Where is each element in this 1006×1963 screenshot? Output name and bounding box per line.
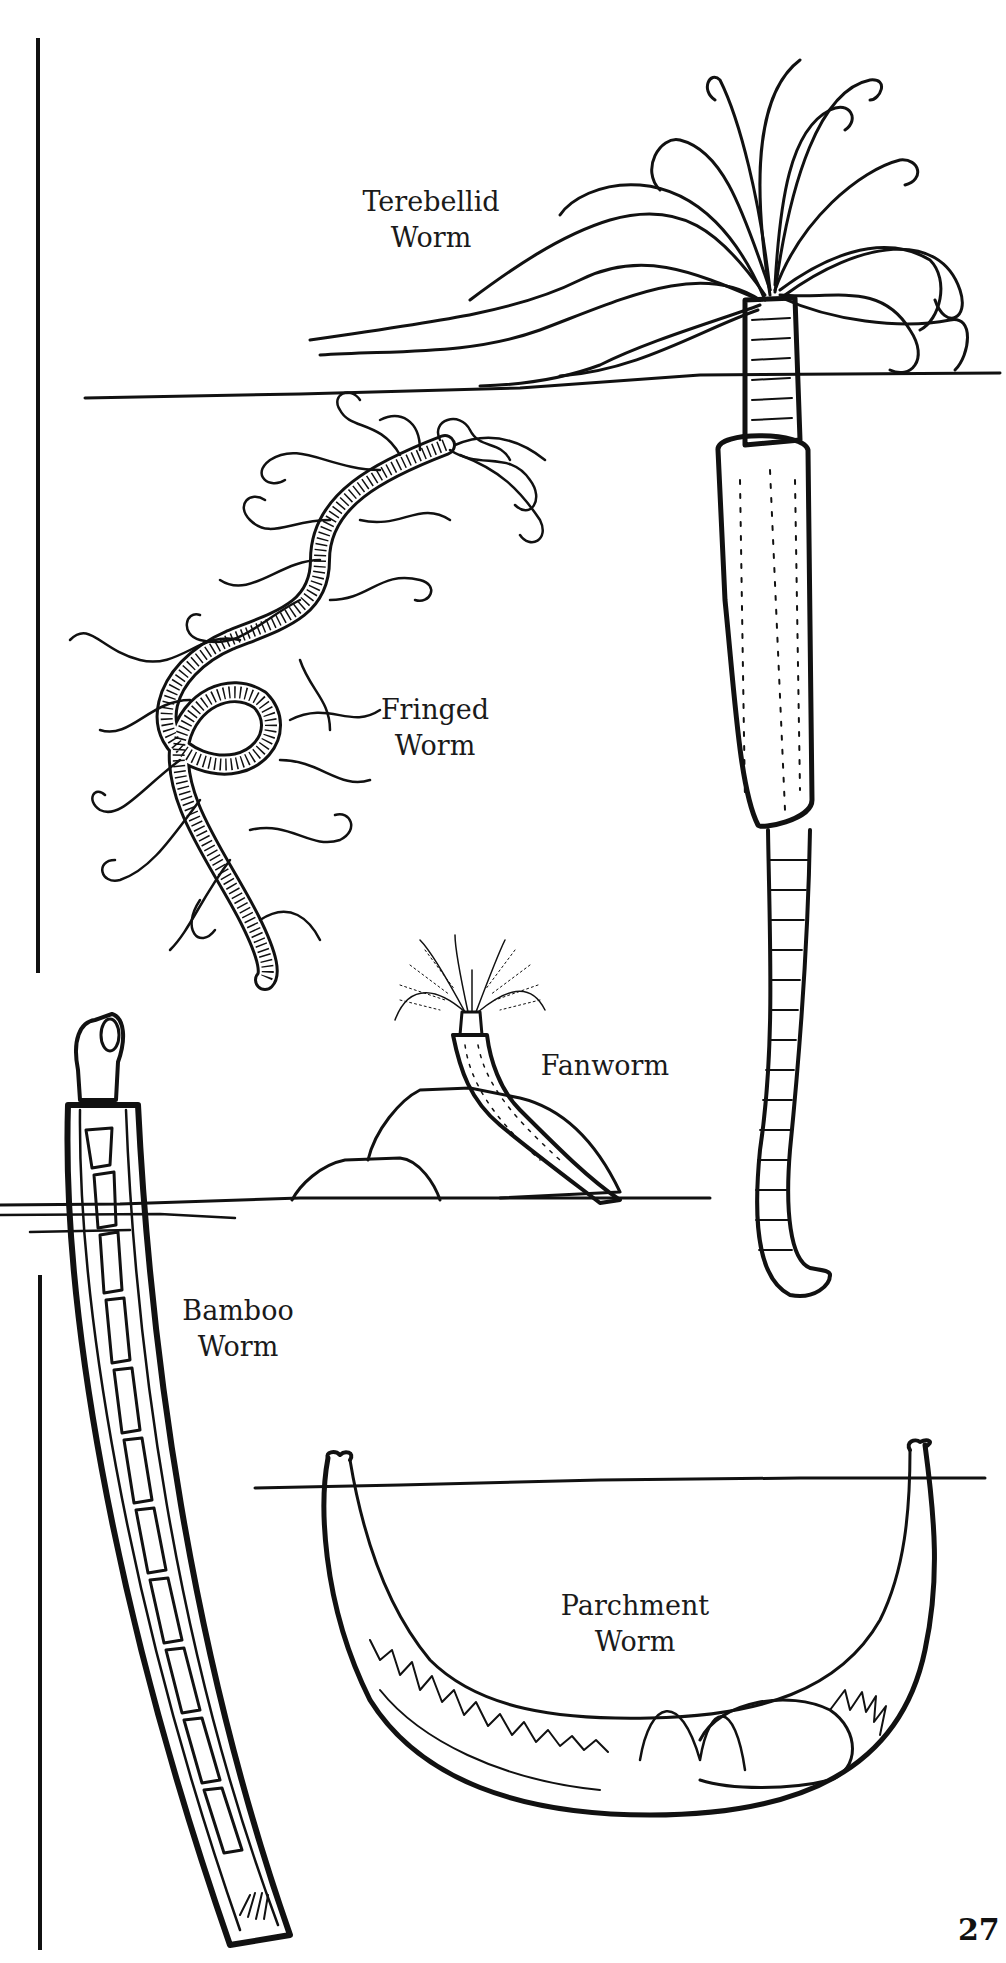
page-number: 27 bbox=[958, 1912, 1000, 1947]
fringed-worm-illustration bbox=[70, 393, 545, 980]
label-line: Fanworm bbox=[530, 1048, 680, 1084]
label-terebellid-worm: Terebellid Worm bbox=[350, 184, 512, 256]
label-line: Worm bbox=[545, 1624, 725, 1660]
label-line: Worm bbox=[170, 1329, 306, 1365]
label-bamboo-worm: Bamboo Worm bbox=[170, 1293, 306, 1365]
label-fringed-worm: Fringed Worm bbox=[370, 692, 500, 764]
terebellid-worm-illustration bbox=[85, 60, 1000, 1296]
label-line: Worm bbox=[370, 728, 500, 764]
label-line: Fringed bbox=[370, 692, 500, 728]
label-line: Bamboo bbox=[170, 1293, 306, 1329]
label-fanworm: Fanworm bbox=[530, 1048, 680, 1084]
bamboo-worm-illustration bbox=[68, 1014, 290, 1945]
label-line: Terebellid bbox=[350, 184, 512, 220]
illustration-canvas bbox=[0, 0, 1006, 1963]
label-line: Parchment bbox=[545, 1588, 725, 1624]
label-parchment-worm: Parchment Worm bbox=[545, 1588, 725, 1660]
label-line: Worm bbox=[350, 220, 512, 256]
